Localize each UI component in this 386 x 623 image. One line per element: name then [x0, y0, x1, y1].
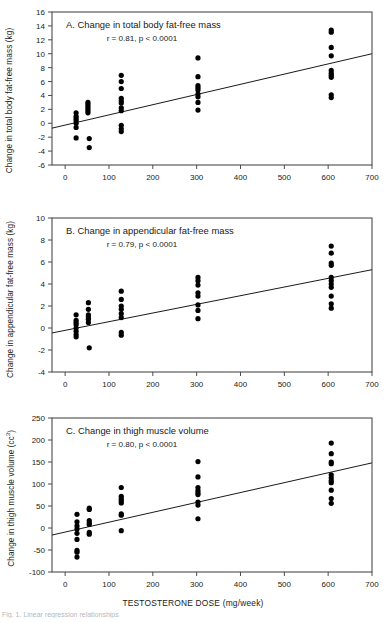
x-tick-label: 500: [278, 580, 292, 589]
data-point: [74, 550, 79, 555]
data-point: [195, 308, 200, 313]
data-point: [86, 307, 91, 312]
data-point: [87, 507, 92, 512]
panel-stat: r = 0.80, p < 0.0001: [107, 440, 178, 449]
data-point: [86, 320, 91, 325]
x-tick-label: 200: [146, 380, 160, 389]
x-tick-label: 300: [190, 580, 204, 589]
data-point: [74, 312, 79, 317]
y-tick-label: 2: [41, 302, 46, 311]
data-point: [195, 492, 200, 497]
panel-title: B. Change in appendicular fat-free mass: [66, 225, 234, 236]
y-tick-label: 6: [41, 258, 46, 267]
data-point: [74, 512, 79, 517]
plot-frame: [52, 418, 372, 572]
data-point: [329, 30, 334, 35]
y-tick-label: 10: [36, 214, 45, 223]
data-point: [329, 501, 334, 506]
data-point: [195, 100, 200, 105]
data-point: [119, 333, 124, 338]
data-point: [87, 136, 92, 141]
data-point: [119, 485, 124, 490]
panel-b-plot: -4-202468100100200300400500600700B. Chan…: [16, 200, 386, 398]
data-point: [329, 285, 334, 290]
data-point: [119, 73, 124, 78]
x-tick-label: 300: [190, 173, 204, 182]
data-point: [329, 45, 334, 50]
data-point: [119, 297, 124, 302]
data-point: [329, 451, 334, 456]
panel-c-thigh-muscle-volume: Change in thigh muscle volume (cc3) -100…: [0, 398, 386, 598]
x-tick-label: 300: [190, 380, 204, 389]
data-point: [329, 461, 334, 466]
x-tick-label: 100: [102, 380, 116, 389]
data-point: [329, 75, 334, 80]
x-tick-label: 700: [365, 380, 379, 389]
y-tick-label: -4: [38, 368, 46, 377]
x-tick-label: 200: [146, 580, 160, 589]
data-point: [74, 537, 79, 542]
y-tick-label: 16: [36, 8, 45, 17]
data-point: [195, 516, 200, 521]
data-point: [74, 531, 79, 536]
y-tick-label: -4: [38, 147, 46, 156]
data-point: [87, 522, 92, 527]
y-tick-label: -2: [38, 346, 46, 355]
panel-c-y-axis-label-text: Change in thigh muscle volume (cc3): [5, 430, 16, 567]
data-point: [195, 459, 200, 464]
x-tick-label: 0: [63, 580, 68, 589]
regression-line: [52, 54, 372, 128]
data-point: [195, 316, 200, 321]
panel-title: A. Change in total body fat-free mass: [66, 19, 221, 30]
y-tick-label: 8: [41, 236, 46, 245]
y-tick-label: 100: [32, 480, 46, 489]
x-tick-label: 0: [63, 173, 68, 182]
y-tick-label: 50: [36, 502, 45, 511]
data-point: [87, 532, 92, 537]
x-tick-label: 600: [321, 580, 335, 589]
x-tick-label: 500: [278, 173, 292, 182]
x-tick-label: 400: [234, 580, 248, 589]
data-point: [119, 513, 124, 518]
y-tick-label: 2: [41, 105, 46, 114]
data-point: [329, 496, 334, 501]
data-point: [329, 95, 334, 100]
y-tick-label: 0: [41, 324, 46, 333]
y-tick-label: 14: [36, 22, 45, 31]
regression-line: [52, 270, 372, 333]
x-tick-label: 100: [102, 173, 116, 182]
x-tick-label: 400: [234, 380, 248, 389]
data-point: [119, 500, 124, 505]
regression-line: [52, 463, 372, 535]
data-point: [329, 251, 334, 256]
y-tick-label: 6: [41, 78, 46, 87]
data-point: [119, 528, 124, 533]
data-point: [87, 345, 92, 350]
panel-stat: r = 0.79, p < 0.0001: [107, 240, 178, 249]
figure-container: Change in total body fat-free mass (kg) …: [0, 0, 386, 623]
data-point: [329, 263, 334, 268]
data-point: [195, 294, 200, 299]
panel-stat: r = 0.81, p < 0.0001: [107, 34, 178, 43]
data-point: [195, 283, 200, 288]
x-axis-title: TESTOSTERONE DOSE (mg/week): [0, 598, 386, 608]
x-tick-label: 100: [102, 580, 116, 589]
panel-title: C. Change in thigh muscle volume: [66, 425, 209, 436]
panel-b-appendicular-fat-free-mass: Change in appendicular fat-free mass (kg…: [0, 200, 386, 398]
x-tick-label: 0: [63, 380, 68, 389]
y-tick-label: 10: [36, 50, 45, 59]
y-tick-label: 200: [32, 436, 46, 445]
panel-c-plot: -100-50050100150200250010020030040050060…: [16, 398, 386, 598]
data-point: [119, 86, 124, 91]
y-tick-label: -6: [38, 161, 46, 170]
figure-caption: Fig. 1. Linear regression relationships: [2, 611, 384, 618]
data-point: [74, 125, 79, 130]
plot-frame: [52, 12, 372, 165]
x-tick-label: 600: [321, 380, 335, 389]
data-point: [195, 474, 200, 479]
data-point: [195, 107, 200, 112]
y-tick-label: 0: [41, 524, 46, 533]
data-point: [74, 135, 79, 140]
data-point: [329, 480, 334, 485]
y-tick-label: 150: [32, 458, 46, 467]
